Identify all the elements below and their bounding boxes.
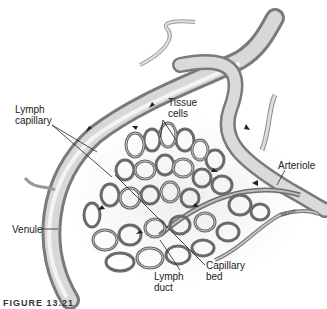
capillary-bed-illustration bbox=[0, 0, 327, 309]
label-lymph-duct: Lymph duct bbox=[154, 271, 184, 293]
figure-caption: FIGURE 13.21 bbox=[3, 298, 74, 308]
label-capillary-bed: Capillary bed bbox=[206, 260, 245, 282]
label-arteriole: Arteriole bbox=[278, 160, 315, 171]
label-lymph-capillary: Lymph capillary bbox=[15, 104, 52, 126]
label-tissue-cells: Tissue cells bbox=[168, 97, 197, 119]
label-venule: Venule bbox=[12, 224, 43, 235]
